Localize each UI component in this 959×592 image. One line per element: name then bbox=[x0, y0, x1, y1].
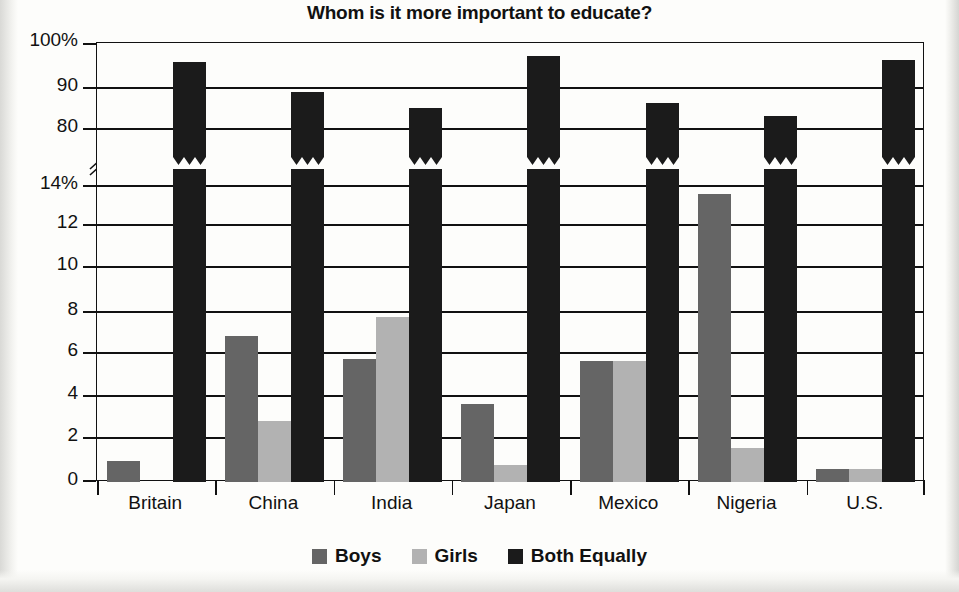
y-axis-label-6: 6 bbox=[0, 339, 78, 361]
bar-india-both-equally bbox=[409, 108, 442, 483]
bar-group-china bbox=[215, 43, 333, 480]
axis-break-zigzag bbox=[409, 155, 442, 167]
legend-label-girls: Girls bbox=[435, 545, 478, 567]
x-axis-label-us: U.S. bbox=[806, 492, 924, 514]
y-axis-label-80: 80 bbox=[0, 115, 78, 137]
bar-china-both-equally bbox=[291, 92, 324, 482]
y-axis-label-2: 2 bbox=[0, 424, 78, 446]
bar-us-boys bbox=[816, 469, 849, 482]
axis-break-zigzag bbox=[291, 155, 324, 167]
bar-group-india bbox=[334, 43, 452, 480]
gridline-8-tick bbox=[83, 311, 96, 313]
scan-edge-bottom bbox=[0, 570, 959, 592]
legend-swatch-boys bbox=[312, 549, 327, 564]
bar-nigeria-both-equally bbox=[764, 116, 797, 482]
axis-break-zigzag bbox=[173, 155, 206, 167]
bar-china-boys bbox=[225, 336, 258, 482]
bar-nigeria-girls bbox=[731, 448, 764, 482]
bar-mexico-boys bbox=[580, 361, 613, 482]
axis-break-zigzag bbox=[646, 155, 679, 167]
gridline-0-tick bbox=[83, 480, 96, 482]
axis-break-zigzag bbox=[882, 155, 915, 167]
bar-japan-both-equally bbox=[527, 56, 560, 482]
legend-swatch-girls bbox=[412, 549, 427, 564]
y-axis-label-10: 10 bbox=[0, 253, 78, 275]
y-axis-label-8: 8 bbox=[0, 298, 78, 320]
y-axis-label-4: 4 bbox=[0, 382, 78, 404]
y-axis-label-100pct: 100% bbox=[0, 29, 78, 51]
chart-plot-area bbox=[96, 42, 924, 481]
bar-india-boys bbox=[343, 359, 376, 482]
legend-item-boys[interactable]: Boys bbox=[312, 545, 381, 567]
bar-nigeria-boys bbox=[698, 194, 731, 482]
axis-break-zigzag bbox=[527, 155, 560, 167]
x-axis-label-mexico: Mexico bbox=[569, 492, 687, 514]
gridline-90-tick bbox=[83, 87, 96, 89]
x-axis-label-nigeria: Nigeria bbox=[687, 492, 805, 514]
gridline-4-tick bbox=[83, 395, 96, 397]
bar-group-britain bbox=[97, 43, 215, 480]
x-axis-label-japan: Japan bbox=[451, 492, 569, 514]
legend-label-boys: Boys bbox=[335, 545, 381, 567]
bar-mexico-both-equally bbox=[646, 103, 679, 482]
scan-edge-right bbox=[945, 0, 959, 592]
y-axis-label-14pct: 14% bbox=[0, 172, 78, 194]
chart-title: Whom is it more important to educate? bbox=[0, 2, 959, 24]
bar-india-girls bbox=[376, 317, 409, 482]
bar-japan-boys bbox=[461, 404, 494, 482]
bar-group-japan bbox=[452, 43, 570, 480]
chart-legend: BoysGirlsBoth Equally bbox=[0, 545, 959, 567]
bar-japan-girls bbox=[494, 465, 527, 482]
legend-swatch-both-equally bbox=[508, 549, 523, 564]
y-axis-label-90: 90 bbox=[0, 74, 78, 96]
gridline-80-tick bbox=[83, 128, 96, 130]
bar-group-mexico bbox=[570, 43, 688, 480]
x-axis-label-india: India bbox=[333, 492, 451, 514]
bar-mexico-girls bbox=[613, 361, 646, 482]
y-axis-label-0: 0 bbox=[0, 468, 78, 490]
gridline-14%-tick bbox=[83, 185, 96, 187]
legend-label-both-equally: Both Equally bbox=[531, 545, 647, 567]
x-axis-label-britain: Britain bbox=[96, 492, 214, 514]
gridline-2-tick bbox=[83, 437, 96, 439]
gridline-100%-tick bbox=[83, 43, 96, 45]
bar-group-us bbox=[807, 43, 925, 480]
x-axis-label-china: China bbox=[214, 492, 332, 514]
bar-china-girls bbox=[258, 421, 291, 482]
y-axis-label-12: 12 bbox=[0, 211, 78, 233]
gridline-10-tick bbox=[83, 266, 96, 268]
axis-break-zigzag bbox=[764, 155, 797, 167]
legend-item-both-equally[interactable]: Both Equally bbox=[508, 545, 647, 567]
bar-britain-both-equally bbox=[173, 62, 206, 482]
bar-us-both-equally bbox=[882, 60, 915, 482]
gridline-12-tick bbox=[83, 224, 96, 226]
legend-item-girls[interactable]: Girls bbox=[412, 545, 478, 567]
bar-group-nigeria bbox=[688, 43, 806, 480]
bar-us-girls bbox=[849, 469, 882, 482]
gridline-6-tick bbox=[83, 352, 96, 354]
bar-britain-boys bbox=[107, 461, 140, 482]
